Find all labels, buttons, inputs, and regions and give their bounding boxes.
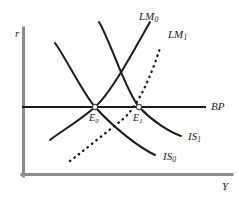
curve-label-lm0-text: LM <box>139 10 154 22</box>
is-lm-bp-figure: r Y LM0 LM1 IS0 IS1 BP E0 E1 <box>0 0 239 204</box>
curve-label-is1-subscript: 1 <box>197 135 201 144</box>
curve-label-lm1: LM1 <box>168 29 187 40</box>
curve-label-lm0-subscript: 0 <box>154 15 158 24</box>
curve-label-lm0: LM0 <box>139 11 158 22</box>
curve-is0 <box>55 43 155 155</box>
curve-label-bp: BP <box>211 101 224 112</box>
point-label-e0: E0 <box>89 113 99 123</box>
curve-lm1 <box>70 48 160 161</box>
point-e1 <box>136 104 141 109</box>
curve-label-is0-subscript: 0 <box>172 155 176 164</box>
curve-label-is0-text: IS <box>163 150 172 162</box>
x-axis-label: Y <box>222 181 228 192</box>
axes-group <box>22 28 232 176</box>
diagram-canvas <box>0 0 239 204</box>
curve-label-is1-text: IS <box>188 130 197 142</box>
point-label-e0-subscript: 0 <box>95 117 98 124</box>
point-label-e1: E1 <box>133 113 143 123</box>
point-e0 <box>92 104 97 109</box>
curve-label-lm1-text: LM <box>168 28 183 40</box>
curve-label-is1: IS1 <box>188 131 201 142</box>
curve-label-is0: IS0 <box>163 151 176 162</box>
y-axis-label: r <box>15 28 19 39</box>
curve-label-lm1-subscript: 1 <box>183 33 187 42</box>
point-label-e1-subscript: 1 <box>139 117 142 124</box>
